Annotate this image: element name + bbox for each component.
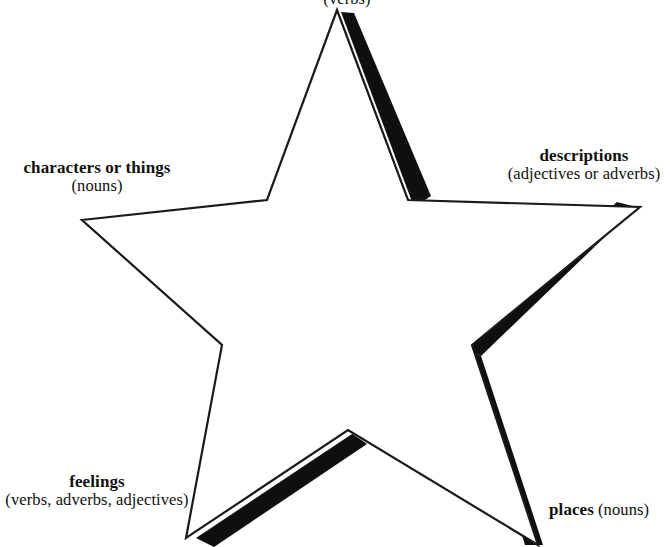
star-shape [0, 0, 670, 547]
label-left-title: characters or things [6, 158, 188, 177]
story-star-diagram: (verbs) characters or things (nouns) des… [0, 0, 670, 547]
label-bottomright-sub: (nouns) [598, 500, 649, 519]
label-right-sub: (adjectives or adverbs) [498, 165, 670, 183]
label-places: places (nouns) [549, 500, 670, 519]
label-left-sub: (nouns) [6, 177, 188, 195]
label-top: (verbs) [247, 0, 447, 8]
label-feelings: feelings (verbs, adverbs, adjectives) [0, 472, 194, 510]
label-descriptions: descriptions (adjectives or adverbs) [498, 146, 670, 184]
label-bottomright-title: places [549, 500, 594, 519]
label-top-sub: (verbs) [247, 0, 447, 8]
label-bottomleft-title: feelings [0, 472, 194, 491]
label-characters-or-things: characters or things (nouns) [6, 158, 188, 196]
label-bottomleft-sub: (verbs, adverbs, adjectives) [0, 491, 194, 509]
label-right-title: descriptions [498, 146, 670, 165]
